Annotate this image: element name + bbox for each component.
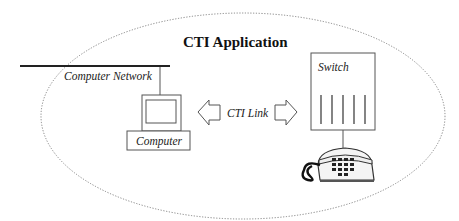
computer-label: Computer (136, 135, 183, 148)
cti-diagram: CTI Application Computer Network Compute… (0, 0, 459, 221)
right-arrow-icon (275, 100, 297, 125)
switch-label: Switch (318, 61, 349, 73)
network-label: Computer Network (64, 70, 153, 83)
left-arrow-icon (198, 100, 220, 125)
cti-link-label: CTI Link (227, 107, 269, 119)
telephone-icon (303, 148, 374, 181)
diagram-title: CTI Application (183, 34, 288, 50)
